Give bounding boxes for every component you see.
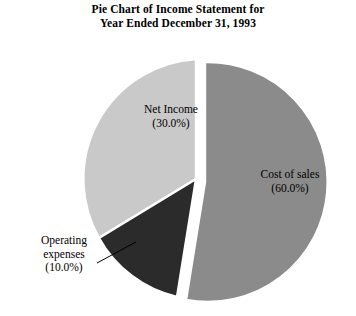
pie-label-cost-of-sales: Cost of sales (60.0%) [240,168,340,195]
pie-label-operating-expenses-name-2: expenses [14,248,114,262]
pie-label-net-income-percent: (30.0%) [118,117,224,131]
pie-label-operating-expenses-name: Operating [14,234,114,248]
pie-label-operating-expenses-percent: (10.0%) [14,261,114,275]
pie-label-net-income: Net Income (30.0%) [118,103,224,130]
pie-label-operating-expenses: Operating expenses (10.0%) [14,234,114,275]
pie-chart-figure: Pie Chart of Income Statement for Year E… [0,0,356,316]
pie-label-cost-of-sales-percent: (60.0%) [240,182,340,196]
pie-label-net-income-name: Net Income [118,103,224,117]
pie-label-cost-of-sales-name: Cost of sales [240,168,340,182]
